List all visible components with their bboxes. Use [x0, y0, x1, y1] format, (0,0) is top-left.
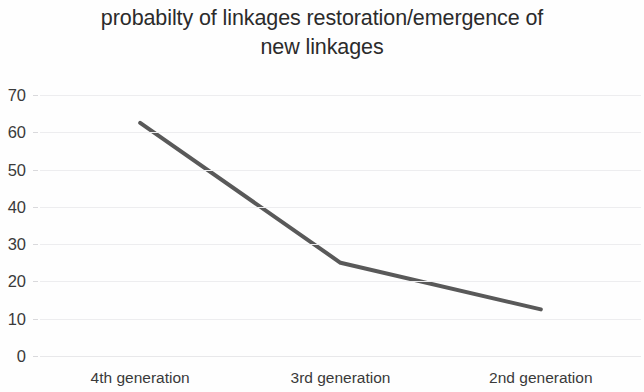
data-series-line — [40, 95, 641, 356]
y-tick-mark — [33, 207, 38, 208]
gridline — [40, 244, 641, 245]
gridline — [40, 356, 641, 357]
y-tick-label: 0 — [17, 348, 26, 365]
y-tick-mark — [33, 170, 38, 171]
gridline — [40, 95, 641, 96]
gridline — [40, 132, 641, 133]
y-tick-label: 40 — [8, 199, 26, 216]
y-tick-label: 60 — [8, 124, 26, 141]
y-tick-label: 50 — [8, 161, 26, 178]
x-tick-label: 3rd generation — [291, 370, 391, 386]
y-axis: 706050403020100 — [0, 95, 32, 356]
gridline — [40, 170, 641, 171]
x-axis: 4th generation3rd generation2nd generati… — [0, 366, 644, 392]
y-tick-mark — [33, 356, 38, 357]
y-tick-label: 10 — [8, 310, 26, 327]
plot-area — [40, 95, 641, 356]
x-tick-label: 2nd generation — [489, 370, 592, 386]
y-tick-mark — [33, 132, 38, 133]
y-tick-mark — [33, 244, 38, 245]
y-tick-mark — [33, 281, 38, 282]
y-tick-mark — [33, 95, 38, 96]
line-chart: probabilty of linkages restoration/emerg… — [0, 0, 644, 392]
gridline — [40, 281, 641, 282]
chart-title: probabilty of linkages restoration/emerg… — [0, 4, 644, 62]
gridline — [40, 207, 641, 208]
y-tick-label: 30 — [8, 236, 26, 253]
y-tick-label: 20 — [8, 273, 26, 290]
gridline — [40, 319, 641, 320]
x-tick-label: 4th generation — [91, 370, 190, 386]
y-tick-mark — [33, 319, 38, 320]
y-tick-label: 70 — [8, 87, 26, 104]
